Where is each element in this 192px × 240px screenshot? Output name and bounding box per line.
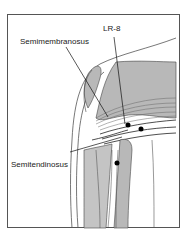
gastrocnemius-medial — [84, 144, 112, 228]
label-lr8: LR-8 — [103, 25, 120, 33]
point-3 — [115, 161, 120, 166]
semimembranosus-muscle — [96, 61, 176, 120]
label-semitendinosus: Semitendinosus — [11, 161, 68, 169]
label-semimembranosus: Semimembranosus — [20, 38, 89, 46]
point-2 — [139, 127, 144, 132]
knee-anatomy-illustration — [0, 0, 192, 240]
lr8-point — [126, 123, 131, 128]
